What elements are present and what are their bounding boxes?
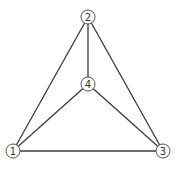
node-1: 1	[6, 144, 20, 158]
node-2: 2	[81, 10, 95, 24]
node-4-label: 4	[85, 79, 91, 90]
node-1-label: 1	[10, 146, 16, 157]
edge-3-4	[88, 84, 163, 151]
node-3-label: 3	[160, 146, 166, 157]
node-3: 3	[156, 144, 170, 158]
node-4: 4	[81, 77, 95, 91]
node-2-label: 2	[85, 12, 91, 23]
edge-1-2	[13, 17, 88, 151]
edge-1-4	[13, 84, 88, 151]
edge-2-3	[88, 17, 163, 151]
k4-graph-diagram: 1 2 3 4	[0, 0, 180, 170]
